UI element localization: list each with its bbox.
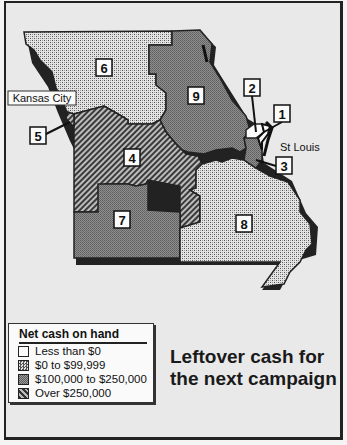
legend-item-high: Over $250,000 xyxy=(18,386,153,400)
kansas-city-callout: Kansas City xyxy=(8,91,76,105)
legend-title: Net cash on hand xyxy=(19,327,147,344)
legend-label: $100,000 to $250,000 xyxy=(35,373,147,385)
district-number: 6 xyxy=(100,61,107,76)
legend-item-neg: Less than $0 xyxy=(18,344,153,358)
district-label-3: 3 xyxy=(276,157,292,174)
district-number: 1 xyxy=(278,107,285,122)
district-number: 4 xyxy=(128,151,136,166)
district-label-1: 1 xyxy=(274,105,290,122)
district-label-5: 5 xyxy=(30,127,46,144)
legend: Net cash on hand Less than $0$0 to $99,9… xyxy=(8,323,154,403)
kansas-city-label: Kansas City xyxy=(13,92,72,104)
legend-label: Over $250,000 xyxy=(35,387,111,399)
district-number: 8 xyxy=(240,217,247,232)
district-label-2: 2 xyxy=(244,79,260,96)
district-number: 7 xyxy=(118,213,125,228)
headline-line-1: Leftover cash for xyxy=(170,346,337,368)
legend-item-low: $0 to $99,999 xyxy=(18,358,153,372)
district-number: 5 xyxy=(34,129,41,144)
headline: Leftover cash for the next campaign xyxy=(170,346,337,390)
legend-swatch xyxy=(18,346,29,357)
district-label-7: 7 xyxy=(114,211,130,228)
st-louis-label: St Louis xyxy=(280,141,320,153)
district-number: 9 xyxy=(192,89,199,104)
district-label-6: 6 xyxy=(96,59,112,76)
district-label-4: 4 xyxy=(124,149,140,166)
district-number: 3 xyxy=(280,159,287,174)
district-label-8: 8 xyxy=(236,215,252,232)
district-number: 2 xyxy=(248,81,255,96)
legend-item-mid: $100,000 to $250,000 xyxy=(18,372,153,386)
headline-line-2: the next campaign xyxy=(170,368,337,390)
legend-swatch xyxy=(18,388,29,399)
legend-swatch xyxy=(18,374,29,385)
legend-swatch xyxy=(18,360,29,371)
legend-label: $0 to $99,999 xyxy=(35,359,105,371)
district-label-9: 9 xyxy=(188,87,204,104)
legend-label: Less than $0 xyxy=(35,345,101,357)
